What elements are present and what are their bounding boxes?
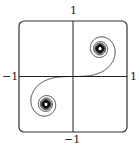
- tick-label-right: 1: [130, 71, 137, 82]
- cornu-spiral-chart: [0, 0, 139, 145]
- tick-label-bottom: −1: [64, 134, 80, 145]
- tick-label-left: −1: [2, 71, 18, 82]
- tick-label-top: 1: [70, 5, 77, 16]
